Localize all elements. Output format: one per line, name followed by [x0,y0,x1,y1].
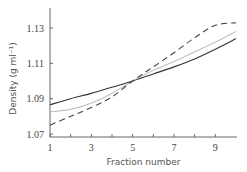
x-axis-label: Fraction number [107,157,181,167]
x-tick-label: 7 [172,142,177,153]
y-axis-label: Density (g ml⁻¹) [8,42,18,114]
x-tick-label: 5 [130,142,135,153]
series-line-solid [50,39,236,105]
series-line-dashed [50,23,236,125]
x-tick-label: 3 [89,142,94,153]
axes [50,8,237,137]
x-tick-label: 9 [213,142,218,153]
y-tick-label: 1.07 [27,129,45,140]
y-tick-label: 1.13 [27,23,45,34]
y-tick-label: 1.09 [27,93,45,104]
density-chart: 1.071.091.111.1313579 Fraction number De… [0,0,247,172]
series-group [50,23,236,125]
y-tick-label: 1.11 [27,58,44,69]
series-line-gray [50,32,236,112]
x-tick-label: 1 [48,142,53,153]
